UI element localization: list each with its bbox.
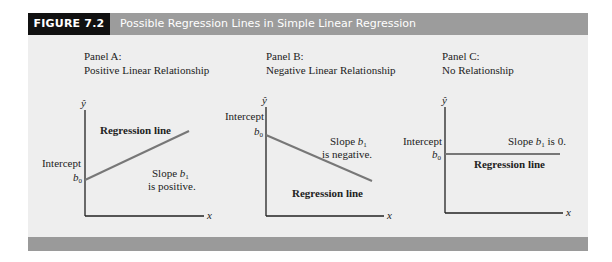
- panel-a-subtitle: Positive Linear Relationship: [84, 64, 210, 76]
- panel-c-y-axis-label: ŷ: [441, 94, 447, 106]
- figure-footer-bar: [28, 237, 588, 251]
- panel-b-b0-label: b0: [254, 125, 264, 139]
- regression-panels: Panel A: Positive Linear Relationship ŷ …: [28, 13, 588, 251]
- panel-c: Panel C: No Relationship ŷ x Intercept b…: [403, 50, 571, 218]
- panel-a-line-label: Regression line: [100, 124, 171, 136]
- panel-a-slope-desc: is positive.: [148, 180, 196, 192]
- panel-b: Panel B: Negative Linear Relationship ŷ …: [225, 50, 396, 221]
- panel-b-x-axis-label: x: [386, 209, 392, 221]
- panel-c-intercept-label: Intercept: [403, 135, 442, 147]
- panel-c-title: Panel C:: [442, 50, 480, 62]
- panel-a-x-axis-label: x: [206, 209, 212, 221]
- panel-c-subtitle: No Relationship: [442, 64, 514, 76]
- panel-c-x-axis-label: x: [565, 206, 571, 218]
- panel-b-title: Panel B:: [266, 50, 304, 62]
- panel-b-slope-text: Slope b1: [330, 135, 367, 149]
- panel-a-y-axis-label: ŷ: [80, 97, 86, 109]
- panel-a: Panel A: Positive Linear Relationship ŷ …: [42, 50, 212, 221]
- panel-b-slope-desc: is negative.: [322, 148, 372, 160]
- panel-c-line-label: Regression line: [474, 158, 545, 170]
- panel-b-intercept-label: Intercept: [225, 110, 264, 122]
- panel-c-slope-text: Slope b1 is 0.: [508, 135, 566, 149]
- panel-a-slope-text: Slope b1: [152, 167, 189, 181]
- panel-a-b0-label: b0: [73, 171, 83, 185]
- panel-b-y-axis-label: ŷ: [261, 94, 267, 106]
- panel-a-title: Panel A:: [84, 50, 122, 62]
- figure: FIGURE 7.2 Possible Regression Lines in …: [28, 13, 588, 251]
- panel-b-subtitle: Negative Linear Relationship: [266, 64, 396, 76]
- panel-a-intercept-label: Intercept: [42, 157, 81, 169]
- panel-c-b0-label: b0: [432, 148, 442, 162]
- panel-b-line-label: Regression line: [292, 187, 363, 199]
